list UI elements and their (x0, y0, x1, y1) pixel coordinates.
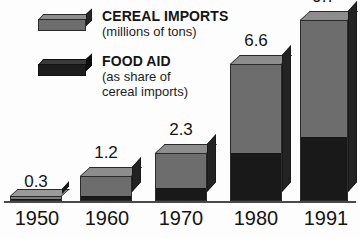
x-tick-label-1950: 1950 (6, 207, 68, 230)
bar-value-label-1950: 0.3 (24, 172, 48, 192)
bar-side-face-1980 (282, 45, 291, 192)
bar-body-1970 (155, 153, 207, 201)
bar-value-label-1991: 9.7 (312, 0, 336, 7)
bar-1960: 1.2 (80, 176, 132, 201)
bar-1991: 9.7 (300, 20, 348, 201)
x-tick-label-1991: 1991 (295, 207, 357, 230)
x-tick-label-1960: 1960 (76, 207, 138, 230)
bar-front-face-1991 (300, 20, 348, 201)
x-tick-label-1980: 1980 (225, 207, 287, 230)
bar-front-face-1950 (10, 196, 62, 201)
bar-front-face-1970 (155, 153, 207, 201)
bar-food-aid-segment-1960 (81, 196, 131, 200)
bar-food-aid-segment-1970 (156, 188, 206, 200)
x-axis-baseline (4, 201, 356, 203)
bar-side-face-1970 (207, 134, 216, 192)
bar-1970: 2.3 (155, 153, 207, 201)
bar-value-label-1960: 1.2 (94, 143, 118, 163)
bar-food-aid-segment-1991 (301, 137, 347, 200)
bar-body-1980 (230, 64, 282, 201)
bar-value-label-1980: 6.6 (244, 31, 268, 51)
bar-value-label-1970: 2.3 (169, 120, 193, 140)
bar-front-face-1960 (80, 176, 132, 201)
bar-body-1991 (300, 20, 348, 201)
bar-front-face-1980 (230, 64, 282, 201)
bar-body-1960 (80, 176, 132, 201)
bar-1980: 6.6 (230, 64, 282, 201)
bar-food-aid-segment-1980 (231, 153, 281, 200)
x-tick-label-1970: 1970 (150, 207, 212, 230)
bar-side-face-1991 (348, 1, 357, 192)
bar-1950: 0.3 (10, 196, 62, 201)
bar-food-aid-segment-1950 (11, 199, 61, 200)
cereal-imports-bar-chart: CEREAL IMPORTS (millions of tons) FOOD A… (0, 0, 360, 239)
bar-body-1950 (10, 196, 62, 201)
